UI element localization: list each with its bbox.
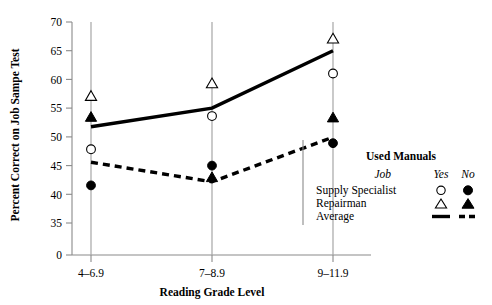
y-tick-labels: 70 65 60 55 50 45 40 35 0 bbox=[51, 16, 63, 261]
legend-row-label: Average bbox=[316, 210, 354, 223]
y-tick-label: 0 bbox=[56, 249, 62, 261]
y-tick-label: 50 bbox=[51, 131, 63, 143]
open-triangle-icon bbox=[435, 199, 446, 208]
chart-svg: Percent Correct on Job Sampe Test 70 65 … bbox=[0, 0, 492, 305]
legend-row-average: Average bbox=[316, 210, 477, 223]
y-axis-title: Percent Correct on Job Sampe Test bbox=[9, 48, 22, 221]
legend-row-label: Repairman bbox=[316, 197, 367, 210]
x-tick-label: 7–8.9 bbox=[199, 267, 225, 279]
legend-row-label: Supply Specialist bbox=[316, 184, 397, 197]
open-circle-icon bbox=[437, 186, 445, 194]
y-tick-label: 55 bbox=[51, 102, 63, 114]
chart-figure: Percent Correct on Job Sampe Test 70 65 … bbox=[0, 0, 492, 305]
legend-title: Used Manuals bbox=[366, 150, 436, 162]
legend-header-job: Job bbox=[374, 168, 391, 180]
x-tick-marks bbox=[91, 255, 333, 262]
legend-header-yes: Yes bbox=[434, 168, 449, 180]
y-tick-label: 35 bbox=[51, 217, 63, 229]
solid-circle-icon bbox=[464, 186, 473, 195]
y-tick-label: 70 bbox=[51, 16, 63, 28]
x-tick-labels: 4–6.9 7–8.9 9–11.9 bbox=[78, 267, 349, 279]
y-tick-label: 45 bbox=[51, 160, 63, 172]
legend-row-supply-specialist: Supply Specialist bbox=[316, 184, 473, 197]
range-connectors bbox=[91, 22, 333, 255]
y-tick-label: 40 bbox=[51, 189, 63, 201]
y-tick-label: 60 bbox=[51, 74, 63, 86]
solid-triangle-icon bbox=[462, 199, 474, 209]
x-tick-label: 4–6.9 bbox=[78, 267, 104, 279]
x-tick-label: 9–11.9 bbox=[317, 267, 348, 279]
y-tick-label: 65 bbox=[51, 45, 63, 57]
y-tick-marks bbox=[66, 22, 72, 255]
legend-header-no: No bbox=[460, 168, 475, 180]
x-axis-title: Reading Grade Level bbox=[160, 286, 265, 299]
legend-row-repairman: Repairman bbox=[316, 197, 474, 210]
